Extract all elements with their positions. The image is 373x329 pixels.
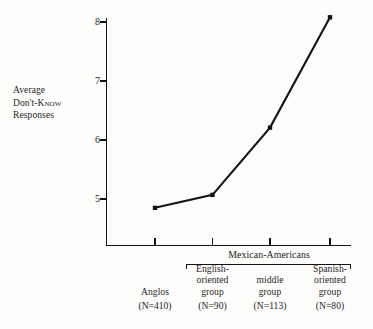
y-tick-5 [100,198,107,199]
y-axis-title: Average Don't-Know Responses [13,84,95,122]
y-tick-label-6: 6 [84,135,100,145]
y-axis-title-line-1: Average [13,85,45,95]
y-axis-title-line-3: Responses [13,110,54,120]
x-tick-english-oriented [212,238,213,245]
chart-figure: Average Don't-Know Responses 8765 Mexica… [0,0,373,329]
data-series-line [155,17,330,208]
data-point-markers [153,15,332,210]
category-n-spanish-oriented: (N=80) [290,300,370,311]
y-tick-label-5: 5 [84,194,100,204]
data-point-anglos [153,206,157,210]
y-tick-label-8: 8 [84,17,100,27]
y-tick-8 [100,21,107,22]
y-axis-line [106,18,107,246]
y-tick-7 [100,80,107,81]
data-point-english-oriented [210,193,214,197]
y-axis-title-line-2b: Know [37,98,61,108]
group-bracket-label: Mexican-Americans [186,249,352,260]
x-tick-middle [269,238,270,245]
x-axis-line [106,245,351,246]
y-tick-6 [100,139,107,140]
x-tick-anglos [154,238,155,245]
category-name-spanish-oriented: Spanish- oriented group [290,263,370,297]
y-axis-title-line-2a: Don't- [13,98,37,108]
category-label-spanish-oriented: Spanish- oriented group [290,263,370,297]
data-point-middle [268,125,272,129]
y-tick-label-7: 7 [84,76,100,86]
data-point-spanish-oriented [328,15,332,19]
x-tick-spanish-oriented [329,238,330,245]
